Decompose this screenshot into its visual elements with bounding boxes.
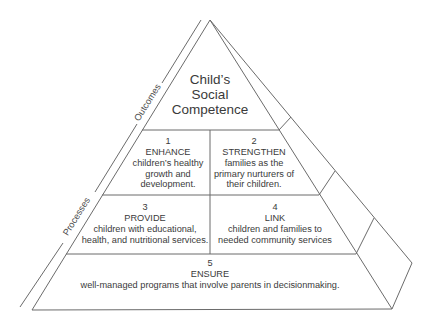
side-face-divider-1 [279,117,291,130]
block-2-number: 2 [251,136,256,146]
block-5-verb: ENSURE [191,269,229,279]
apex-outcome: Child’s Social Competence [172,72,249,117]
block-1-verb: ENHANCE [146,147,191,157]
block-1-line-3: development. [140,179,195,189]
block-3-line-1: children with educational, [93,224,196,234]
apex-title-line-1: Child’s [190,72,231,87]
side-face-divider-3 [356,218,374,254]
block-3-provide: 3 PROVIDE children with educational, hea… [82,202,209,245]
block-2-verb: STRENGTHEN [222,147,285,157]
block-3-line-2: health, and nutritional services. [82,235,209,245]
block-2-line-2: primary nurturers of [214,169,295,179]
block-4-verb: LINK [265,213,286,223]
apex-title-line-2: Social [192,87,229,102]
block-4-number: 4 [272,202,277,212]
block-1-line-2: growth and [145,169,190,179]
block-1-number: 1 [165,136,170,146]
block-5-ensure: 5 ENSURE well-managed programs that invo… [80,258,340,290]
block-1-enhance: 1 ENHANCE children’s healthy growth and … [133,136,204,189]
pyramid-diagram: Outcomes Processes Child’s Social Compet… [0,0,433,332]
outcomes-label: Outcomes [132,82,163,123]
block-3-number: 3 [142,202,147,212]
pyramid-base-side-edge [392,263,412,309]
block-4-line-2: needed community services [218,235,332,245]
block-4-line-1: children and families to [228,224,322,234]
block-5-line-1: well-managed programs that involve paren… [80,280,340,290]
block-1-line-1: children’s healthy [133,158,204,168]
pyramid-outline [32,20,412,310]
block-2-line-3: their children. [226,179,281,189]
label-line-mid [95,124,137,192]
block-2-line-1: families as the [225,158,284,168]
apex-title-line-3: Competence [172,102,249,117]
processes-label: Processes [61,195,92,237]
block-3-verb: PROVIDE [124,213,165,223]
label-line-bottom [20,243,63,307]
block-4-link: 4 LINK children and families to needed c… [218,202,332,245]
block-2-strengthen: 2 STRENGTHEN families as the primary nur… [214,136,295,189]
block-5-number: 5 [207,258,212,268]
side-face-divider-2 [319,171,335,195]
